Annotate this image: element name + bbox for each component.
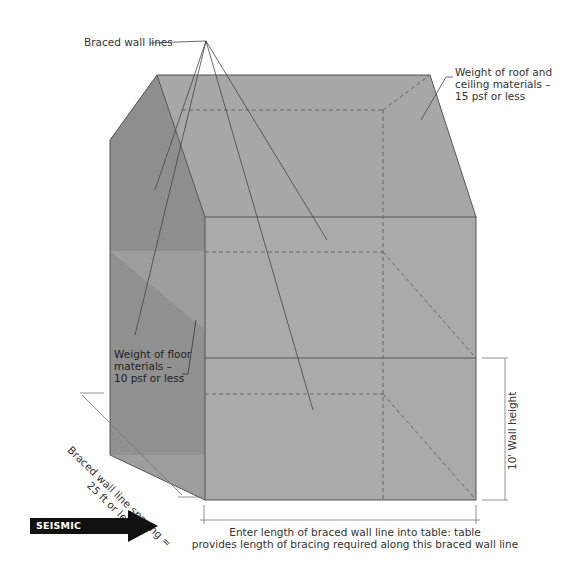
floor-weight-line-1: Weight of floor [114,348,191,360]
seismic-direction-label: SEISMIC DIRECTION [30,518,128,534]
enter-length-line-2: provides length of bracing required alon… [190,538,520,550]
roof-weight-line-3: 15 psf or less [455,90,552,102]
braced-wall-lines-label: Braced wall lines [84,36,173,48]
enter-length-line-1: Enter length of braced wall line into ta… [190,526,520,538]
wall-height-label: 10' Wall height [506,392,518,470]
enter-length-caption: Enter length of braced wall line into ta… [190,526,520,550]
roof-weight-line-1: Weight of roof and [455,66,552,78]
roof-weight-line-2: ceiling materials – [455,78,552,90]
roof-weight-label: Weight of roof and ceiling materials – 1… [455,66,552,102]
arrow-right-icon [128,510,158,542]
floor-weight-label: Weight of floor materials – 10 psf or le… [114,348,191,384]
seismic-direction-arrow: SEISMIC DIRECTION [30,515,158,537]
floor-weight-line-3: 10 psf or less [114,372,191,384]
roof-face [157,75,476,217]
floor-weight-line-2: materials – [114,360,191,372]
